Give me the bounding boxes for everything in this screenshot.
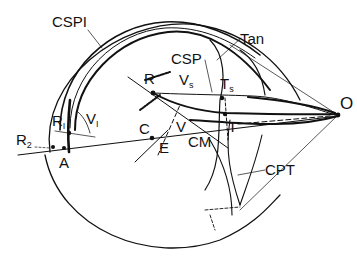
point-c [150, 136, 155, 141]
cpt-curve-2 [240, 135, 262, 205]
label-r1: RI [52, 113, 65, 131]
tan-curve [205, 40, 223, 190]
label-v1-main: V [86, 110, 96, 127]
point-r1 [67, 131, 71, 135]
dashed-hatched-2 [140, 95, 160, 110]
label-cpt: CPT [265, 162, 295, 177]
label-r2: R2 [16, 132, 32, 150]
label-csp: CSP [171, 51, 202, 66]
label-a: A [59, 155, 69, 170]
t-to-o-lower [190, 116, 338, 124]
eye-geometry-diagram: CSPI Tan CSP R Vs Ts O T RI VI R2 A C E … [0, 0, 357, 263]
label-r2-main: R [16, 131, 27, 148]
label-v1-sub: I [96, 119, 99, 129]
point-o [336, 113, 341, 118]
point-r2 [51, 145, 55, 149]
label-vs-main: V [179, 71, 189, 88]
label-r: R [144, 71, 155, 86]
label-vs: Vs [179, 72, 194, 90]
csp-arrow [205, 60, 212, 92]
label-t: T [228, 119, 237, 134]
label-r2-sub: 2 [27, 140, 32, 150]
label-ts: Ts [220, 76, 234, 94]
label-ts-sub: s [229, 84, 234, 94]
label-e: E [159, 140, 169, 155]
r2-arrow [35, 147, 50, 148]
label-cm: CM [188, 134, 211, 149]
point-t [223, 112, 227, 116]
label-r1-main: R [52, 112, 63, 129]
point-ts [220, 96, 224, 100]
label-o: O [340, 95, 353, 112]
label-c: C [139, 121, 150, 136]
csp1-arrow [88, 30, 102, 48]
label-vs-sub: s [189, 80, 194, 90]
tangent-upper [230, 45, 338, 115]
label-r1-sub: I [63, 121, 66, 131]
label-tan: Tan [240, 31, 264, 46]
point-r [151, 91, 156, 96]
label-ts-main: T [220, 75, 229, 92]
cpt-dashed [205, 207, 240, 230]
label-v: V [176, 119, 186, 134]
label-csp1: CSPI [52, 14, 87, 29]
r1-tick [55, 131, 95, 137]
point-a [62, 146, 66, 150]
label-v1: VI [86, 111, 99, 129]
